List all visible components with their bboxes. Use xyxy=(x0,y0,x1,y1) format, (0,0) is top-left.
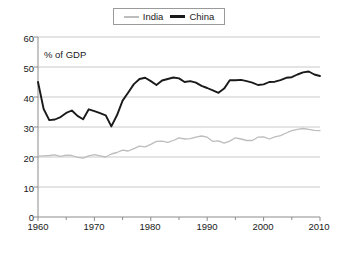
ytick-label-40: 40 xyxy=(10,94,34,104)
xtick-label-2010: 2010 xyxy=(299,222,338,232)
xtick-label-2000: 2000 xyxy=(243,222,283,232)
xtick-label-1970: 1970 xyxy=(74,222,114,232)
ytick-label-50: 50 xyxy=(10,64,34,74)
xtick-label-1980: 1980 xyxy=(130,222,170,232)
ytick-label-10: 10 xyxy=(10,184,34,194)
ytick-label-20: 20 xyxy=(10,154,34,164)
chart-container: India China % of GDP 60 50 40 30 20 10 0… xyxy=(0,0,338,253)
series-line-china xyxy=(38,72,320,127)
xtick-label-1990: 1990 xyxy=(187,222,227,232)
ytick-label-30: 30 xyxy=(10,124,34,134)
xtick-label-1960: 1960 xyxy=(18,222,58,232)
series-line-india xyxy=(38,129,320,159)
plot-area xyxy=(0,0,338,253)
ytick-label-60: 60 xyxy=(10,34,34,44)
